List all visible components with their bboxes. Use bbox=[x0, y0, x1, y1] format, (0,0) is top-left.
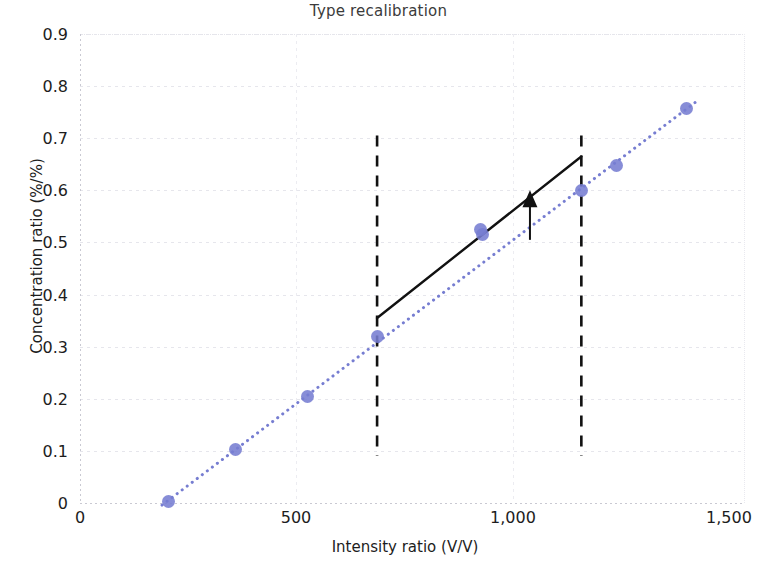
data-point bbox=[575, 184, 588, 197]
x-axis-label: Intensity ratio (V/V) bbox=[80, 538, 730, 556]
x-tick-label: 1,500 bbox=[689, 508, 757, 527]
y-tick-label: 0.9 bbox=[6, 25, 68, 44]
data-point bbox=[229, 443, 242, 456]
data-point bbox=[301, 390, 314, 403]
y-tick-label: 0.1 bbox=[6, 442, 68, 461]
y-tick-label: 0.7 bbox=[6, 129, 68, 148]
x-tick-label: 0 bbox=[40, 508, 120, 527]
x-axis-line bbox=[80, 503, 745, 504]
y-tick-label: 0.5 bbox=[6, 233, 68, 252]
y-tick-label: 0.6 bbox=[6, 181, 68, 200]
data-point bbox=[162, 495, 175, 508]
data-point bbox=[371, 330, 384, 343]
x-tick-label: 500 bbox=[256, 508, 336, 527]
y-tick-label: 0.3 bbox=[6, 338, 68, 357]
chart-figure: Type recalibration Concentration ratio (… bbox=[0, 0, 757, 567]
chart-title: Type recalibration bbox=[0, 2, 757, 20]
y-tick-label: 0.8 bbox=[6, 77, 68, 96]
chart-vector-layer bbox=[80, 34, 745, 503]
y-tick-label: 0.4 bbox=[6, 286, 68, 305]
x-tick-label: 1,000 bbox=[473, 508, 553, 527]
data-point bbox=[610, 159, 623, 172]
y-tick-label: 0.2 bbox=[6, 390, 68, 409]
data-point bbox=[476, 228, 489, 241]
